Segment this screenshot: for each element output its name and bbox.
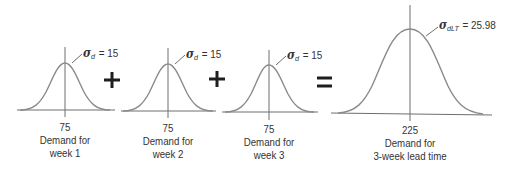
sigma-leader-week-3 <box>276 56 286 65</box>
caption-line-1: Demand for <box>133 135 203 148</box>
sigma-label-week-2: σd = 15 <box>186 48 221 62</box>
sigma-leader-week-1 <box>72 54 82 63</box>
sigma-value: = 15 <box>303 49 323 61</box>
sigma-value: = 15 <box>99 47 119 59</box>
caption-lead-time: 225 Demand for 3-week lead time <box>362 124 459 163</box>
caption-line-1: Demand for <box>234 136 304 149</box>
sigma-subscript: d <box>91 52 95 61</box>
caption-week-3: 75 Demand for week 3 <box>234 123 304 162</box>
sigma-label-lead-time: σdLT = 25.98 <box>439 19 496 33</box>
sigma-symbol: σ <box>83 46 91 60</box>
caption-week-2: 75 Demand for week 2 <box>133 122 203 161</box>
caption-line-2: week 3 <box>234 149 304 162</box>
demand-distribution-diagram: σd = 15 σd = 15 σd = 15 σdLT = 25.98 75 … <box>0 0 508 175</box>
caption-line-2: week 1 <box>30 147 100 160</box>
plus-operator-2 <box>209 71 225 87</box>
caption-week-1: 75 Demand for week 1 <box>30 121 100 160</box>
sigma-label-week-1: σd = 15 <box>83 47 118 61</box>
mean-value: 225 <box>362 124 459 137</box>
equals-operator <box>317 78 332 86</box>
plus-operator-1 <box>104 72 120 88</box>
baseline-lead-time <box>331 113 492 115</box>
sigma-subscript: d <box>194 53 198 62</box>
sigma-symbol: σ <box>186 47 194 61</box>
mean-value: 75 <box>234 123 304 136</box>
sigma-subscript: dLT <box>447 24 459 33</box>
sigma-symbol: σ <box>439 18 447 32</box>
sigma-value: = 15 <box>202 48 222 60</box>
caption-line-1: Demand for <box>30 134 100 147</box>
caption-line-1: Demand for <box>362 137 459 150</box>
sigma-subscript: d <box>295 54 299 63</box>
sigma-leader-lead-time <box>426 27 438 36</box>
mean-value: 75 <box>133 122 203 135</box>
sigma-label-week-3: σd = 15 <box>287 49 322 63</box>
caption-line-2: 3-week lead time <box>362 150 459 163</box>
sigma-value: = 25.98 <box>463 19 496 31</box>
sigma-leader-week-2 <box>175 55 185 64</box>
sigma-symbol: σ <box>287 48 295 62</box>
caption-line-2: week 2 <box>133 148 203 161</box>
mean-value: 75 <box>30 121 100 134</box>
